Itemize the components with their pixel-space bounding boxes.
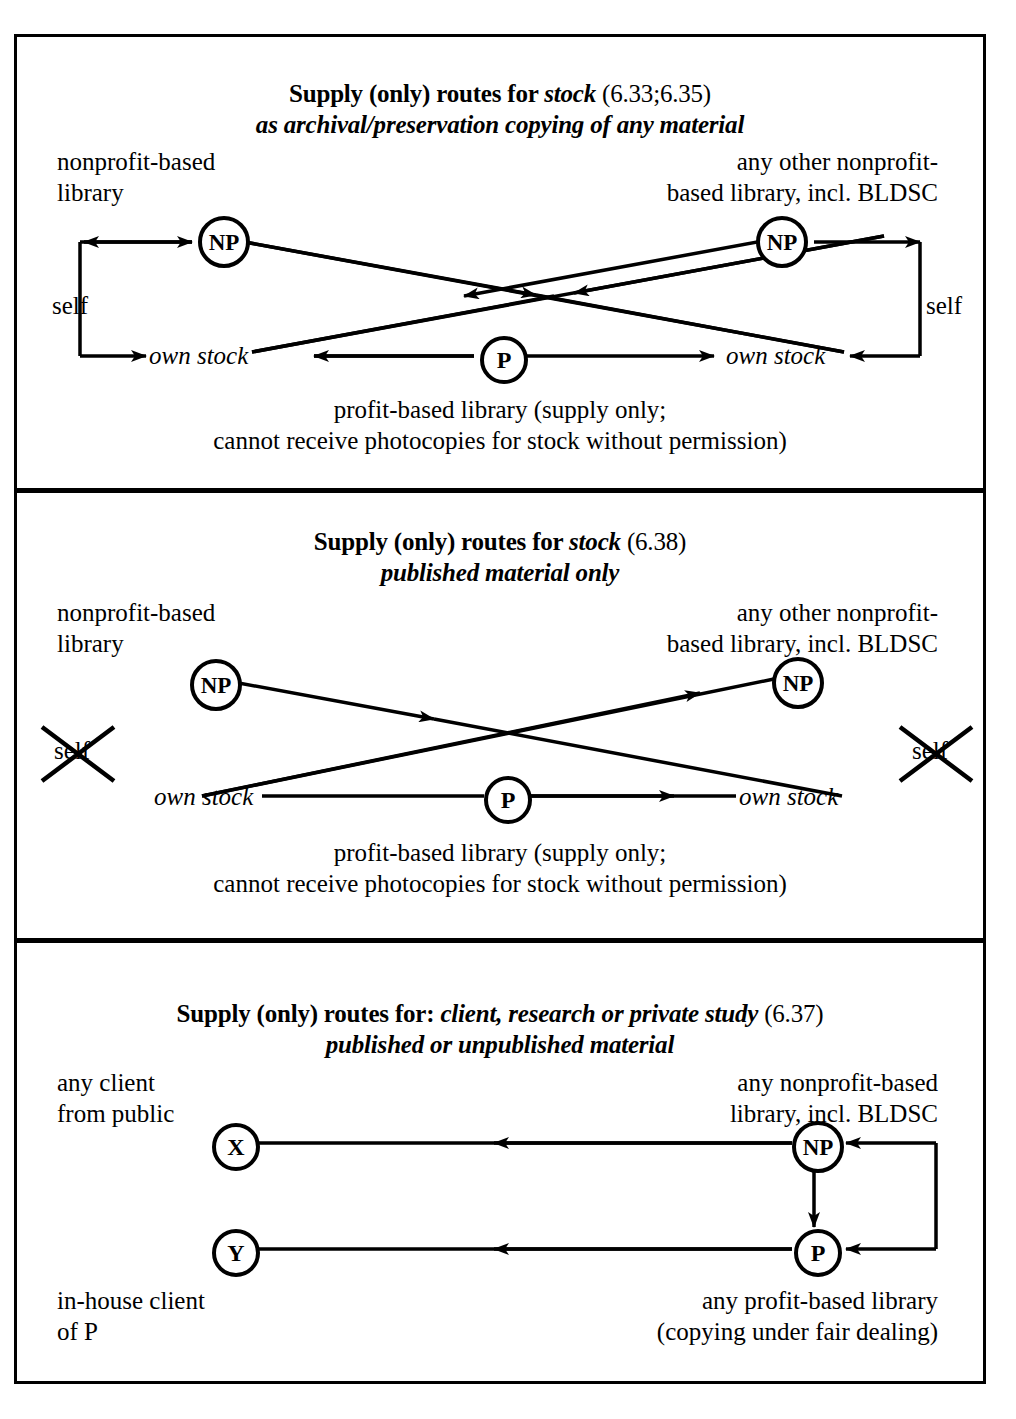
panel-3-label-bottomright-1: any profit-based library <box>702 1285 938 1316</box>
panel-2-node-p-center: P <box>484 776 532 824</box>
panel-1: Supply (only) routes for stock (6.33;6.3… <box>14 34 986 488</box>
panel-2-self-left-strikeout-icon <box>36 721 120 787</box>
panel-3-label-bottomleft-2: of P <box>57 1316 98 1347</box>
panel-3: Supply (only) routes for: client, resear… <box>14 943 986 1384</box>
panel-2-node-np-right: NP <box>772 657 824 709</box>
panel-1-caption-2: cannot receive photocopies for stock wit… <box>14 425 986 456</box>
panel-3-label-bottomright-2: (copying under fair dealing) <box>657 1316 938 1347</box>
panel-2-caption-2: cannot receive photocopies for stock wit… <box>14 868 986 899</box>
panel-1-node-p-center: P <box>480 336 528 384</box>
panel-2-node-np-left: NP <box>190 659 242 711</box>
panel-1-self-right: self <box>926 290 962 321</box>
panel-1-node-np-right: NP <box>756 216 808 268</box>
panel-1-caption-1: profit-based library (supply only; <box>14 394 986 425</box>
panel-3-node-x: X <box>212 1123 260 1171</box>
panel-1-own-stock-right: own stock <box>726 340 825 371</box>
figure-sheet: Supply (only) routes for stock (6.33;6.3… <box>0 0 1016 1419</box>
panel-3-label-bottomleft-1: in-house client <box>57 1285 205 1316</box>
panel-3-node-p: P <box>794 1229 842 1277</box>
panel-1-own-stock-left: own stock <box>149 340 248 371</box>
panel-1-self-left: self <box>52 290 88 321</box>
panel-2: Supply (only) routes for stock (6.38) pu… <box>14 493 986 938</box>
panel-2-caption-1: profit-based library (supply only; <box>14 837 986 868</box>
panel-2-self-right-strikeout-icon <box>894 721 978 787</box>
panel-3-node-y: Y <box>212 1229 260 1277</box>
panel-2-own-stock-right: own stock <box>739 781 838 812</box>
panel-1-node-np-left: NP <box>198 216 250 268</box>
panel-3-node-np: NP <box>792 1121 844 1173</box>
panel-2-own-stock-left: own stock <box>154 781 253 812</box>
